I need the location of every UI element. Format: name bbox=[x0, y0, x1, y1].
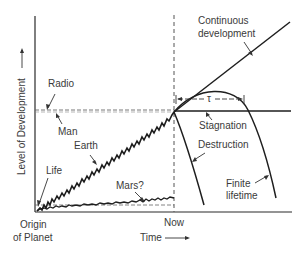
label-life: Life bbox=[46, 165, 63, 176]
tau-label: τ bbox=[207, 93, 211, 104]
label-continuous-line2: development bbox=[198, 28, 255, 39]
x-axis-arrow-icon bbox=[185, 236, 190, 240]
pointer-destruction-arrow-icon bbox=[192, 157, 197, 162]
x-axis-label: Time bbox=[140, 232, 162, 243]
pointer-life bbox=[39, 178, 48, 204]
pointer-earth-arrow-icon bbox=[92, 160, 97, 165]
label-radio: Radio bbox=[48, 78, 75, 89]
development-diagram: τ Continuous development Radio Man Earth… bbox=[0, 0, 308, 253]
label-origin-line1: Origin bbox=[20, 219, 47, 230]
pointer-finite-arrow-icon bbox=[264, 175, 269, 180]
tau-arrow-left-icon bbox=[177, 97, 182, 101]
label-mars: Mars? bbox=[116, 180, 144, 191]
label-stagnation: Stagnation bbox=[199, 120, 247, 131]
pointer-man-arrow-icon bbox=[56, 113, 60, 118]
pointer-life-arrow-icon bbox=[37, 200, 41, 207]
label-now: Now bbox=[164, 217, 185, 228]
label-destruction: Destruction bbox=[198, 139, 249, 150]
label-finite-line1: Finite bbox=[226, 178, 251, 189]
label-earth: Earth bbox=[74, 140, 98, 151]
label-man: Man bbox=[58, 126, 77, 137]
y-axis-label: Level of Development bbox=[16, 78, 27, 175]
label-origin-line2: of Planet bbox=[13, 232, 53, 243]
label-finite-line2: lifetime bbox=[226, 190, 258, 201]
mars-curve bbox=[37, 197, 174, 211]
label-continuous-line1: Continuous bbox=[198, 15, 249, 26]
pointer-radio-arrow-icon bbox=[46, 104, 50, 110]
y-axis-arrow-icon bbox=[20, 48, 24, 53]
